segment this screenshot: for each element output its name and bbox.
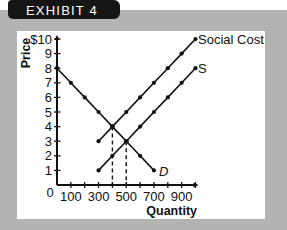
s-point: [180, 81, 184, 85]
d-label: D: [159, 164, 168, 179]
x-tick-label: 700: [143, 189, 165, 204]
y-tick-label: $10: [30, 32, 52, 47]
d-point: [124, 139, 128, 143]
y-axis-title: Price: [19, 38, 33, 69]
s-label: S: [198, 61, 207, 76]
s-point: [138, 125, 142, 129]
social-cost-label: Social Cost: [198, 32, 264, 47]
d-point: [69, 81, 73, 85]
y-tick-label: 8: [45, 61, 52, 76]
s-point: [152, 110, 156, 114]
y-tick-label: 2: [45, 148, 52, 163]
y-tick-label: 3: [45, 134, 52, 149]
x-axis-title: Quantity: [146, 204, 197, 218]
d-point: [152, 168, 156, 172]
x-tick-label: 500: [115, 189, 137, 204]
social-cost-point: [152, 81, 156, 85]
x-tick-label: 100: [60, 189, 82, 204]
d-point: [138, 154, 142, 158]
series-lines: Social CostSD: [55, 32, 264, 179]
social-cost-point: [138, 95, 142, 99]
y-tick-label: 7: [45, 75, 52, 90]
d-point: [83, 95, 87, 99]
y-tick-label: 9: [45, 46, 52, 61]
s-point: [110, 154, 114, 158]
d-point: [110, 125, 114, 129]
y-tick-label: 5: [45, 105, 52, 120]
s-point: [96, 168, 100, 172]
social-cost-point: [124, 110, 128, 114]
d-point: [55, 66, 59, 70]
series-d: D: [55, 66, 168, 179]
origin-label: 0: [46, 185, 53, 200]
axes: 100300500700900123456789$10: [30, 32, 198, 204]
supply-demand-chart: 100300500700900123456789$10 Social CostS…: [0, 0, 287, 230]
x-tick-label: 900: [171, 189, 193, 204]
x-tick-label: 300: [88, 189, 110, 204]
social-cost-point: [96, 139, 100, 143]
y-tick-label: 1: [45, 163, 52, 178]
y-tick-label: 6: [45, 90, 52, 105]
social-cost-point: [193, 37, 197, 41]
social-cost-point: [166, 66, 170, 70]
social-cost-point: [180, 52, 184, 56]
y-tick-label: 4: [45, 119, 52, 134]
series-social-cost: Social Cost: [96, 32, 264, 144]
series-s: S: [96, 61, 207, 173]
s-point: [166, 95, 170, 99]
s-point: [193, 66, 197, 70]
d-point: [96, 110, 100, 114]
